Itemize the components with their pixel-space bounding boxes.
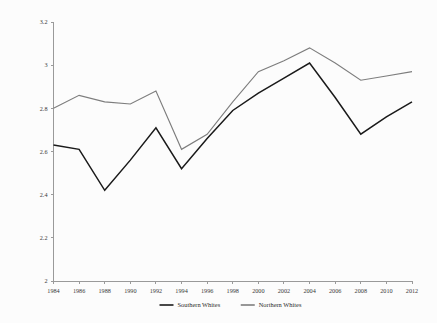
y-axis-ticks: 22.22.42.62.833.2 — [40, 18, 54, 284]
x-tick-label: 1992 — [150, 287, 162, 294]
y-tick-label: 2 — [44, 277, 47, 284]
x-tick-label: 1990 — [124, 287, 136, 294]
x-axis-ticks: 1984198619881990199219941996199820002002… — [47, 281, 418, 294]
x-tick-label: 2010 — [380, 287, 392, 294]
x-tick-label: 1988 — [99, 287, 111, 294]
y-tick-label: 2.4 — [40, 191, 48, 198]
x-tick-label: 2012 — [406, 287, 418, 294]
x-tick-label: 1998 — [227, 287, 239, 294]
x-tick-label: 2008 — [355, 287, 367, 294]
series-line-southern-whites — [54, 63, 413, 190]
series-lines — [54, 48, 413, 190]
y-tick-label: 3 — [44, 61, 47, 68]
y-tick-label: 2.8 — [40, 105, 48, 112]
x-tick-label: 2004 — [303, 287, 315, 294]
legend-label-0: Southern Whites — [178, 301, 221, 308]
x-tick-label: 1984 — [47, 287, 59, 294]
line-chart: 22.22.42.62.833.2 1984198619881990199219… — [0, 0, 437, 323]
legend-label-1: Northern Whites — [259, 301, 302, 308]
x-tick-label: 1996 — [201, 287, 213, 294]
y-tick-label: 2.6 — [40, 148, 48, 155]
x-tick-label: 2000 — [252, 287, 264, 294]
x-tick-label: 1986 — [73, 287, 85, 294]
y-tick-label: 3.2 — [40, 18, 48, 25]
chart-container: 22.22.42.62.833.2 1984198619881990199219… — [0, 0, 437, 323]
x-tick-label: 1994 — [175, 287, 187, 294]
y-tick-label: 2.2 — [40, 234, 48, 241]
chart-legend: Southern WhitesNorthern Whites — [160, 301, 302, 308]
x-tick-label: 2002 — [278, 287, 290, 294]
series-line-northern-whites — [54, 48, 413, 149]
x-tick-label: 2006 — [329, 287, 341, 294]
